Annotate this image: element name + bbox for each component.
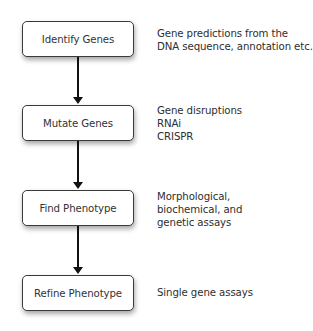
step-note-mutate-genes: Gene disruptions RNAi CRISPR bbox=[157, 104, 242, 143]
arrow-down-icon bbox=[73, 182, 83, 189]
arrow-shaft bbox=[77, 57, 79, 98]
step-box-find-phenotype: Find Phenotype bbox=[22, 190, 134, 226]
note-line: DNA sequence, annotation etc. bbox=[157, 40, 313, 53]
step-note-find-phenotype: Morphological, biochemical, and genetic … bbox=[157, 190, 242, 229]
note-line: Gene disruptions bbox=[157, 104, 242, 117]
step-label: Refine Phenotype bbox=[34, 288, 122, 299]
note-line: Morphological, bbox=[157, 190, 242, 203]
arrow-down-icon bbox=[73, 267, 83, 274]
step-label: Find Phenotype bbox=[39, 203, 116, 214]
note-line: Single gene assays bbox=[157, 286, 253, 299]
note-line: genetic assays bbox=[157, 216, 242, 229]
step-box-identify-genes: Identify Genes bbox=[22, 21, 134, 57]
step-label: Identify Genes bbox=[42, 34, 115, 45]
step-label: Mutate Genes bbox=[43, 118, 113, 129]
note-line: biochemical, and bbox=[157, 203, 242, 216]
step-box-mutate-genes: Mutate Genes bbox=[22, 105, 134, 141]
step-note-identify-genes: Gene predictions from the DNA sequence, … bbox=[157, 27, 313, 53]
arrow-shaft bbox=[77, 141, 79, 183]
step-note-refine-phenotype: Single gene assays bbox=[157, 286, 253, 299]
step-box-refine-phenotype: Refine Phenotype bbox=[22, 275, 134, 311]
arrow-down-icon bbox=[73, 97, 83, 104]
arrow-shaft bbox=[77, 226, 79, 268]
note-line: RNAi bbox=[157, 117, 242, 130]
note-line: Gene predictions from the bbox=[157, 27, 313, 40]
note-line: CRISPR bbox=[157, 130, 242, 143]
